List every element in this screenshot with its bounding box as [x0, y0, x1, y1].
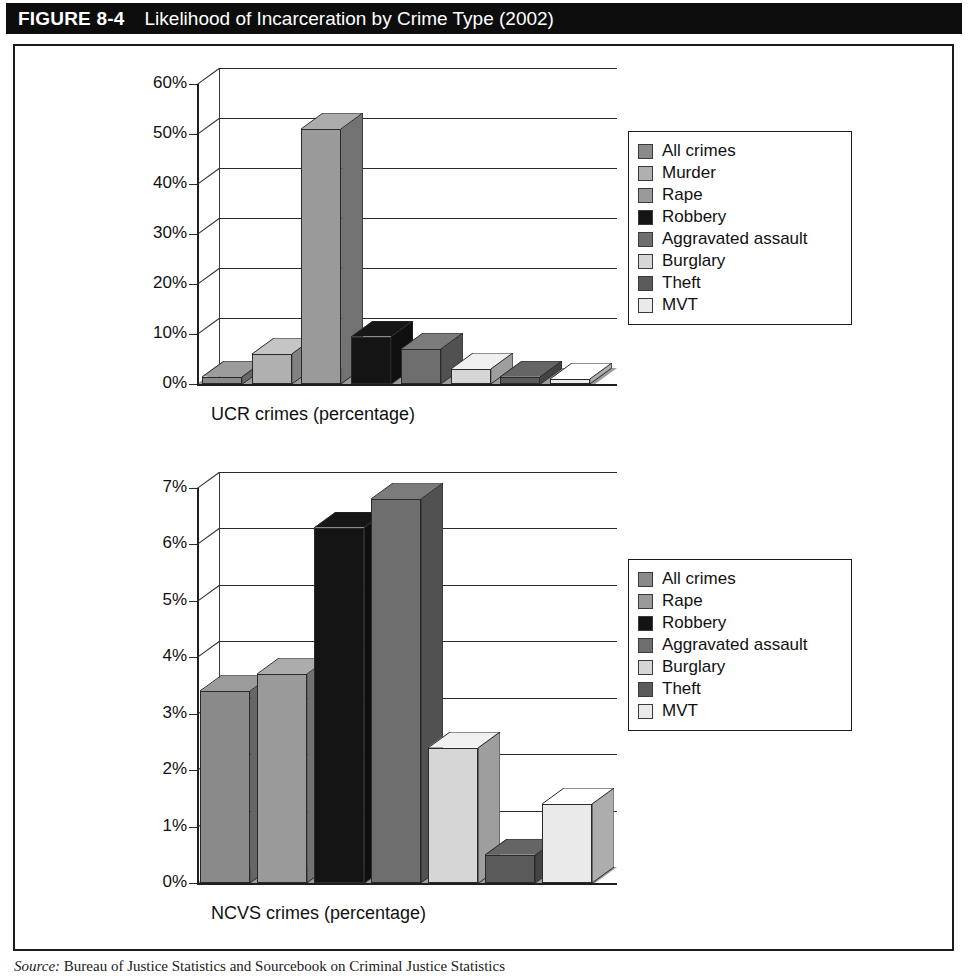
y-axis-tick [189, 601, 197, 602]
legend-item[interactable]: Murder [638, 163, 841, 183]
y-axis-label: 1% [119, 816, 187, 836]
y-axis-label: 7% [119, 477, 187, 497]
bar [371, 483, 421, 883]
y-axis-label: 2% [119, 759, 187, 779]
bar-face [371, 499, 421, 883]
axis-depth-connector [197, 528, 220, 545]
legend-swatch-icon [638, 188, 653, 203]
bar [451, 353, 491, 384]
legend-swatch-icon [638, 210, 653, 225]
y-axis-label: 3% [119, 703, 187, 723]
figure-panel: 60%50%40%30%20%10%0% [13, 44, 954, 951]
y-axis-label: 40% [119, 173, 187, 193]
y-axis-tick [189, 234, 197, 235]
axis-depth-connector [197, 641, 220, 658]
y-axis-tick [189, 134, 197, 135]
figure-header: FIGURE 8-4 Likelihood of Incarceration b… [6, 3, 962, 34]
gridline [219, 168, 617, 169]
gridline [219, 268, 617, 269]
legend-item[interactable]: Aggravated assault [638, 229, 841, 249]
legend-item[interactable]: Aggravated assault [638, 635, 841, 655]
source-prefix: Source: [14, 958, 60, 974]
legend-swatch-icon [638, 638, 653, 653]
bar-face [401, 349, 441, 384]
x-axis-title-ucr: UCR crimes (percentage) [211, 404, 415, 425]
bar [401, 333, 441, 384]
legend-swatch-icon [638, 276, 653, 291]
legend-ncvs: All crimesRapeRobberyAggravated assaultB… [628, 559, 852, 731]
y-axis-label: 60% [119, 73, 187, 93]
bar-face [301, 129, 341, 384]
legend-swatch-icon [638, 298, 653, 313]
bar-face [550, 379, 590, 384]
legend-swatch-icon [638, 254, 653, 269]
bar [200, 675, 250, 883]
legend-label: Burglary [662, 251, 725, 271]
y-axis-label: 10% [119, 323, 187, 343]
axis-depth-connector [197, 472, 220, 489]
axis-depth-connector [197, 118, 220, 135]
y-axis-tick [189, 284, 197, 285]
y-axis-tick [189, 714, 197, 715]
legend-swatch-icon [638, 616, 653, 631]
y-axis-tick [189, 334, 197, 335]
y-axis-label: 5% [119, 590, 187, 610]
legend-item[interactable]: Theft [638, 273, 841, 293]
y-axis-tick [189, 770, 197, 771]
bar-face [485, 855, 535, 883]
axis-depth-connector [197, 68, 220, 85]
bar-face [257, 674, 307, 883]
legend-item[interactable]: Burglary [638, 657, 841, 677]
y-axis-label: 0% [119, 872, 187, 892]
bar [314, 512, 364, 884]
legend-swatch-icon [638, 682, 653, 697]
y-axis-label: 30% [119, 223, 187, 243]
legend-label: Burglary [662, 657, 725, 677]
legend-swatch-icon [638, 594, 653, 609]
legend-label: Rape [662, 591, 703, 611]
legend-label: Aggravated assault [662, 635, 808, 655]
axis-depth-connector [197, 268, 220, 285]
bar-face [314, 528, 364, 884]
y-axis-tick [189, 883, 197, 884]
legend-swatch-icon [638, 572, 653, 587]
figure-number: FIGURE 8-4 [18, 8, 125, 30]
legend-label: All crimes [662, 569, 736, 589]
legend-item[interactable]: MVT [638, 701, 841, 721]
legend-swatch-icon [638, 704, 653, 719]
gridline [219, 218, 617, 219]
axis-depth-connector [197, 218, 220, 235]
legend-item[interactable]: MVT [638, 295, 841, 315]
bar-face [200, 691, 250, 883]
bar [257, 658, 307, 883]
y-axis-label: 4% [119, 646, 187, 666]
legend-label: Robbery [662, 613, 726, 633]
legend-ucr: All crimesMurderRapeRobberyAggravated as… [628, 131, 852, 325]
gridline [219, 472, 617, 473]
bar-face [252, 354, 292, 384]
y-axis-tick [189, 84, 197, 85]
legend-item[interactable]: All crimes [638, 569, 841, 589]
legend-label: MVT [662, 701, 698, 721]
bar-face [500, 377, 540, 385]
bar [252, 338, 292, 384]
x-axis-line [197, 384, 617, 386]
bar-face [202, 377, 242, 385]
legend-item[interactable]: Theft [638, 679, 841, 699]
legend-item[interactable]: Rape [638, 591, 841, 611]
axis-depth-connector [197, 318, 220, 335]
legend-item[interactable]: All crimes [638, 141, 841, 161]
bar-face [542, 804, 592, 883]
bar-face [351, 337, 391, 385]
legend-swatch-icon [638, 660, 653, 675]
axis-depth-connector [197, 585, 220, 602]
legend-item[interactable]: Robbery [638, 613, 841, 633]
source-text: Bureau of Justice Statistics and Sourceb… [60, 958, 505, 974]
source-note: Source: Bureau of Justice Statistics and… [14, 958, 954, 975]
gridline [219, 68, 617, 69]
bar [428, 732, 478, 883]
legend-item[interactable]: Robbery [638, 207, 841, 227]
gridline [219, 318, 617, 319]
legend-item[interactable]: Burglary [638, 251, 841, 271]
legend-item[interactable]: Rape [638, 185, 841, 205]
